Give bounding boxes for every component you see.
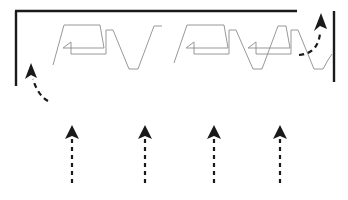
zigzag-path-left	[53, 25, 162, 69]
sweep-arrow-4-head	[273, 125, 287, 139]
sweep-direction-arrow-2	[138, 125, 152, 183]
exit-arrow-head	[314, 13, 327, 31]
sweep-arrow-2-head	[138, 125, 152, 139]
work-area-boundary	[15, 11, 334, 86]
sweep-direction-arrow-4	[273, 125, 287, 183]
coverage-path-diagram	[0, 0, 348, 200]
zigzag-exit-tail	[323, 54, 332, 69]
entry-direction-arrow	[25, 63, 48, 101]
entry-arrow-shaft	[33, 79, 48, 101]
sweep-direction-arrow-3	[207, 125, 221, 183]
entry-arrow-head	[25, 63, 37, 79]
sweep-direction-arrow-1	[65, 125, 79, 183]
zigzag-path-right	[174, 25, 323, 69]
coverage-path-group	[53, 25, 332, 69]
exit-direction-arrow	[299, 13, 327, 55]
exit-arrow-shaft	[299, 33, 320, 55]
diagram-canvas	[0, 0, 348, 200]
sweep-arrow-3-head	[207, 125, 221, 139]
sweep-arrow-1-head	[65, 125, 79, 139]
